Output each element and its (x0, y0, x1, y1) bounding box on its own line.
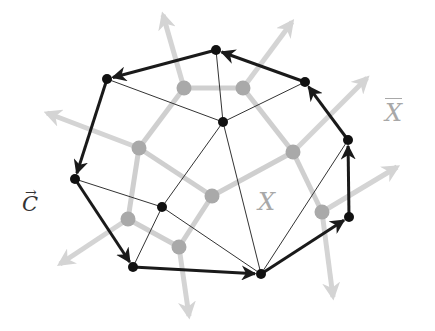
primal-node (157, 202, 167, 212)
boundary-directed-edge (133, 267, 255, 274)
interior-edge (75, 179, 162, 207)
dual-node (172, 240, 187, 255)
label-c-vector: → C (22, 194, 38, 215)
boundary-directed-edge (348, 146, 349, 217)
planar-graph-figure: → C X X (0, 0, 435, 331)
dual-edge (139, 88, 184, 148)
vector-arrow-icon: → (25, 185, 37, 199)
dual-edge (243, 88, 293, 152)
label-x: X (258, 190, 275, 214)
label-x-bar: X (385, 98, 402, 125)
primal-nodes (70, 45, 354, 279)
dual-node (286, 145, 301, 160)
dual-outer-arrow (163, 15, 184, 88)
dual-edge (212, 152, 293, 196)
dual-outer-arrow (322, 212, 333, 297)
dual-node (315, 205, 330, 220)
primal-node (343, 135, 353, 145)
dual-node (205, 189, 220, 204)
dual-edge (128, 148, 139, 219)
dual-node (121, 212, 136, 227)
dual-outer-arrow (179, 247, 189, 316)
dual-edge (128, 219, 179, 247)
primal-node (128, 262, 138, 272)
graph-canvas (0, 0, 435, 331)
dual-outer-arrow (243, 22, 292, 88)
dual-node (132, 141, 147, 156)
primal-node (102, 74, 112, 84)
primal-node (70, 174, 80, 184)
primal-node (256, 269, 266, 279)
dual-outer-arrow (322, 167, 397, 212)
boundary-directed-edge (261, 220, 344, 274)
interior-edge (223, 122, 261, 274)
dual-node (177, 81, 192, 96)
dual-node (236, 81, 251, 96)
boundary-directed-edge (113, 50, 216, 77)
primal-node (211, 45, 221, 55)
primal-node (300, 77, 310, 87)
primal-node (218, 117, 228, 127)
primal-node (344, 212, 354, 222)
